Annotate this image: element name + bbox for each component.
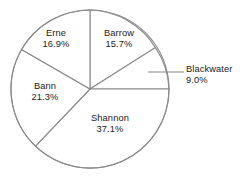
- pie-label-barrow: Barrow 15.7%: [93, 28, 145, 50]
- pie-label-bann: Bann 21.3%: [21, 81, 69, 103]
- pie-label-barrow-name: Barrow: [93, 28, 145, 39]
- pie-label-shannon: Shannon 37.1%: [82, 113, 138, 135]
- pie-label-blackwater-name: Blackwater: [186, 64, 240, 75]
- pie-label-shannon-name: Shannon: [82, 113, 138, 124]
- pie-label-bann-value: 21.3%: [21, 92, 69, 103]
- pie-label-erne: Erne 16.9%: [33, 28, 79, 50]
- pie-label-erne-name: Erne: [33, 28, 79, 39]
- pie-label-barrow-value: 15.7%: [93, 39, 145, 50]
- pie-label-blackwater: Blackwater 9.0%: [186, 64, 240, 86]
- pie-label-erne-value: 16.9%: [33, 39, 79, 50]
- pie-label-shannon-value: 37.1%: [82, 124, 138, 135]
- pie-chart: Erne 16.9% Barrow 15.7% Bann 21.3% Shann…: [0, 0, 240, 186]
- pie-label-bann-name: Bann: [21, 81, 69, 92]
- pie-label-blackwater-value: 9.0%: [186, 75, 240, 86]
